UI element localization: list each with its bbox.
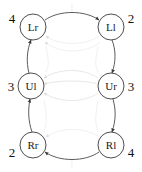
edge-ur-ul-faint-b: [44, 81, 98, 84]
edge-vertical-left-lower-faint: [44, 100, 46, 132]
side-label-Lr: 4: [9, 11, 16, 26]
node-label-Rr: Rr: [28, 139, 39, 151]
side-label-Rr: 2: [9, 145, 16, 160]
edge-vertical-right-faint: [96, 46, 98, 72]
edge-vertical-right-lower-faint: [96, 100, 98, 132]
node-label-Lr: Lr: [28, 21, 39, 33]
graph-canvas: Lr 4 Ll 2 Ul 3 Ur 3 Rr 2: [0, 0, 142, 172]
edge-rr-ul: [29, 99, 32, 132]
faint-edge-layer: [44, 3, 100, 169]
edge-vertical-left-faint: [46, 46, 48, 72]
node-Ur[interactable]: Ur: [98, 73, 124, 99]
edge-ur-ul-faint-a: [44, 71, 98, 79]
edge-rl-rr-faint: [46, 130, 99, 138]
edge-rl-rr: [45, 152, 99, 160]
node-label-Ur: Ur: [105, 80, 117, 92]
side-label-Ur: 3: [128, 79, 135, 94]
edge-ur-rl: [112, 99, 115, 132]
edge-ul-lr: [27, 40, 31, 73]
edge-ll-ur: [112, 40, 115, 73]
node-Rl[interactable]: Rl: [98, 132, 124, 158]
node-Ll[interactable]: Ll: [98, 14, 124, 40]
node-Rr[interactable]: Rr: [20, 132, 46, 158]
directed-graph-figure: Lr 4 Ll 2 Ul 3 Ur 3 Rr 2: [0, 0, 142, 172]
edge-lr-ll: [45, 13, 99, 21]
node-Ul[interactable]: Ul: [18, 73, 44, 99]
edge-ur-ul-faint-c: [44, 93, 98, 101]
side-label-Ul: 3: [8, 79, 15, 94]
side-label-Rl: 4: [128, 145, 135, 160]
node-label-Rl: Rl: [106, 139, 116, 151]
node-label-Ul: Ul: [26, 80, 37, 92]
node-label-Ll: Ll: [106, 21, 116, 33]
side-label-Ll: 2: [128, 11, 135, 26]
edge-ll-lr-faint-a: [46, 36, 99, 44]
node-layer: Lr 4 Ll 2 Ul 3 Ur 3 Rr 2: [8, 11, 135, 160]
node-Lr[interactable]: Lr: [20, 14, 46, 40]
